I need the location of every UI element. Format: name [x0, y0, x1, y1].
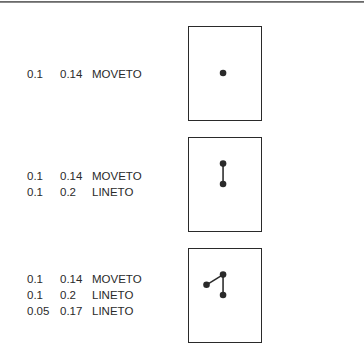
x-value: 0.1: [27, 271, 43, 287]
operator: LINETO: [92, 303, 133, 319]
operator: MOVETO: [92, 168, 142, 184]
x-value: 0.1: [27, 66, 43, 82]
x-value: 0.1: [27, 184, 43, 200]
plot-frame: [188, 137, 262, 232]
operator: MOVETO: [92, 271, 142, 287]
path-point: [220, 292, 227, 299]
top-rule: [0, 1, 364, 3]
y-value: 0.2: [60, 287, 76, 303]
path-drawing: [189, 138, 261, 231]
y-value: 0.14: [60, 271, 82, 287]
path-point: [220, 181, 227, 188]
path-drawing: [189, 249, 261, 342]
x-value: 0.1: [27, 168, 43, 184]
path-point: [203, 281, 210, 288]
plot-frame: [188, 248, 262, 343]
path-point: [220, 160, 227, 167]
path-point: [220, 271, 227, 278]
x-value: 0.05: [27, 303, 49, 319]
path-drawing: [189, 27, 261, 120]
operator: LINETO: [92, 184, 133, 200]
operator: LINETO: [92, 287, 133, 303]
y-value: 0.17: [60, 303, 82, 319]
y-value: 0.14: [60, 66, 82, 82]
x-value: 0.1: [27, 287, 43, 303]
y-value: 0.2: [60, 184, 76, 200]
y-value: 0.14: [60, 168, 82, 184]
path-point: [220, 70, 227, 77]
plot-frame: [188, 26, 262, 121]
operator: MOVETO: [92, 66, 142, 82]
